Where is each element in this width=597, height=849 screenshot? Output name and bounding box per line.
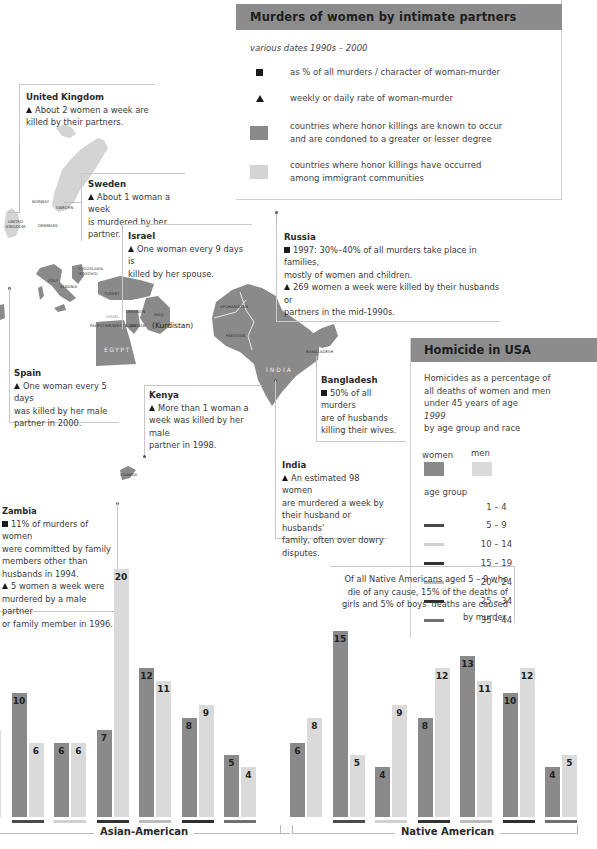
note-line: Of all Native Americans aged 5 – 9 who	[330, 573, 508, 586]
bar-value-label: 6	[29, 746, 44, 756]
callout-text: mostly of women and children.	[284, 269, 500, 282]
age-group-marker	[460, 820, 492, 823]
leader-line	[64, 202, 82, 203]
callout-text: husbands in 1994.	[2, 568, 117, 581]
usa-desc-line: under 45 years of age	[424, 397, 594, 410]
leader-dot	[143, 455, 146, 458]
light-swatch-icon	[250, 165, 268, 179]
callout-text: More than 1 woman a	[158, 403, 249, 413]
usa-title: Homicide in USA	[411, 338, 597, 362]
age-group-marker	[139, 820, 171, 823]
bar-women: 15	[333, 631, 348, 817]
triangle-icon	[128, 246, 134, 252]
callout-title: India	[282, 459, 387, 472]
leader-line	[19, 140, 20, 212]
callout-text: week was killed by her male	[149, 414, 262, 439]
age-group-marker	[182, 820, 214, 823]
map-label-denmark: DENMARK	[38, 223, 58, 228]
usa-year: 1999	[424, 410, 594, 423]
group-bracket-tick	[280, 825, 281, 833]
callout-text: were committed by family	[2, 543, 117, 556]
bar-men: 11	[477, 681, 492, 817]
bar-value-label: 13	[460, 659, 475, 669]
callout-text: 1997: 30%–40% of all murders take place …	[284, 245, 477, 268]
group-bracket-tick	[292, 825, 293, 833]
map-label-yugoslavia-2: (KOSOVO)	[78, 271, 98, 276]
map-label-bangladesh: BANGLADESH	[306, 349, 333, 354]
bar-women: 4	[375, 767, 390, 817]
callout-text: partner in 1998.	[149, 439, 262, 452]
women-legend-label: women	[422, 450, 453, 460]
bar-value-label: 11	[477, 684, 492, 694]
bar-men: 5	[350, 755, 365, 817]
callout-title: Sweden	[88, 178, 185, 191]
age-group-label: age group	[424, 487, 467, 497]
bar-value-label: 15	[333, 634, 348, 644]
callout-text: family, often over dowry	[282, 534, 387, 547]
age-group-marker	[503, 820, 535, 823]
age-legend-row: 10 – 14	[424, 538, 544, 550]
callout-text: was killed by her male	[14, 405, 119, 418]
square-icon	[256, 69, 263, 76]
bar-women: 5	[224, 755, 239, 817]
callout-text: About 2 women a week are	[35, 105, 149, 115]
triangle-icon	[2, 583, 8, 589]
age-group-marker	[12, 820, 44, 823]
legend-item-dark-swatch: countries where honor killings are known…	[250, 120, 502, 146]
legend-item-light-swatch: countries where honor killings have occu…	[250, 159, 481, 185]
map-label-sweden: SWEDEN	[56, 205, 73, 210]
bar-men: 12	[435, 668, 450, 817]
age-group-marker	[54, 820, 86, 823]
callout-title: Zambia	[2, 505, 117, 518]
age-label: 10 – 14	[474, 539, 519, 549]
bar-men: 4	[241, 767, 256, 817]
triangle-icon	[149, 405, 155, 411]
age-label: 1 – 4	[474, 502, 519, 512]
triangle-icon	[14, 383, 20, 389]
bar-men: 11	[156, 681, 171, 817]
group-bracket-tick	[577, 825, 578, 833]
bar-value-label: 4	[545, 770, 560, 780]
bar-men: 6	[29, 743, 44, 817]
map-label-uk-2: KINGDOM	[6, 224, 25, 229]
bar-women: 12	[139, 668, 154, 817]
callout-text: 5 women a week were	[11, 581, 104, 591]
square-icon	[284, 247, 290, 253]
age-legend-row: 1 – 4	[424, 501, 544, 513]
legend-item-square: as % of all murders / character of woman…	[250, 66, 500, 79]
bar-value-label: 4	[375, 770, 390, 780]
age-legend-row: 5 – 9	[424, 519, 544, 531]
callout-spain: Spain One woman every 5 days was killed …	[9, 288, 119, 423]
women-swatch-icon	[424, 462, 444, 476]
usa-desc-line: Homicides as a percentage of	[424, 372, 594, 385]
map-label-india: INDIA	[266, 366, 293, 373]
bar-women: 6	[54, 743, 69, 817]
age-label: 5 – 9	[474, 520, 519, 530]
map-label-pakistan: PAKISTAN	[226, 333, 245, 338]
bar-value-label: 10	[503, 696, 518, 706]
group-label-native-american: Native American	[395, 826, 500, 837]
bar-women: 6	[290, 743, 305, 817]
bar-men: 9	[392, 705, 407, 817]
callout-india: India An estimated 98 women are murdered…	[275, 380, 387, 539]
callout-text: One woman every 5 days	[14, 381, 107, 404]
age-group-marker	[545, 820, 577, 823]
callout-text: are murdered a week by	[282, 497, 387, 510]
bar-value-label: 7	[97, 733, 112, 743]
age-line-icon	[424, 543, 444, 546]
square-icon	[2, 521, 8, 527]
legend-item-label: among immigrant communities	[290, 172, 481, 185]
bar-value-label: 5	[350, 758, 365, 768]
usa-desc-line: all deaths of women and men	[424, 385, 594, 398]
triangle-icon	[282, 475, 288, 481]
men-legend-label: men	[471, 448, 490, 458]
callout-russia: Russia 1997: 30%–40% of all murders take…	[276, 226, 500, 322]
legend-panel: Murders of women by intimate partners va…	[236, 0, 562, 200]
bar-value-label: 9	[199, 708, 214, 718]
callout-text: partners in the mid-1990s.	[284, 306, 500, 319]
callout-text: partner in 2000.	[14, 417, 119, 430]
callout-text: their husband or husbands'	[282, 509, 387, 534]
callout-text: killed by her spouse.	[128, 268, 252, 281]
dark-swatch-icon	[250, 126, 268, 140]
bar-women: 13	[460, 656, 475, 817]
